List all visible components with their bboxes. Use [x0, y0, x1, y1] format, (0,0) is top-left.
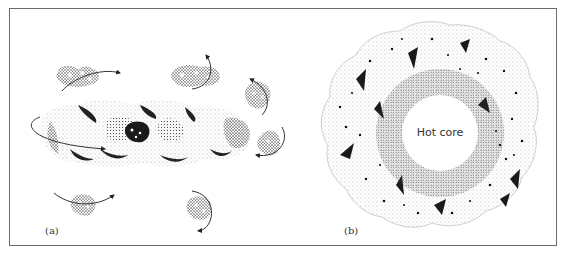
hot-core-label: Hot core: [400, 126, 480, 139]
globular-structure: [321, 22, 538, 228]
small-molecule-2: [171, 55, 220, 89]
small-molecule-4: [256, 127, 284, 156]
small-molecule-1: [56, 66, 120, 91]
panel-b: Hot core (b): [300, 9, 558, 245]
panel-a-illustration: [10, 9, 300, 247]
panel-a: (a): [10, 9, 300, 245]
macromolecule: [40, 100, 251, 167]
panel-b-label: (b): [344, 225, 358, 236]
panel-a-label: (a): [45, 225, 59, 236]
small-molecule-3: [245, 79, 271, 115]
figure-frame: (a): [9, 8, 557, 246]
small-molecule-6: [187, 191, 212, 231]
small-molecule-5: [54, 193, 114, 216]
